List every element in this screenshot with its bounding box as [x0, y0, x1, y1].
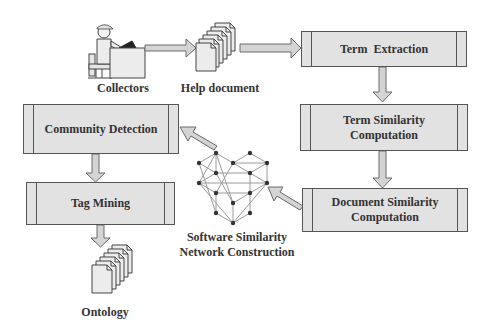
document-similarity-box: Document Similarity Computation: [302, 188, 468, 232]
arrow-document-similarity-to-network: [268, 187, 303, 210]
arrow-tag-mining-to-ontology: [91, 225, 110, 247]
arrow-term-extraction-to-term-similarity: [373, 67, 392, 102]
network-label-line1: Software Similarity: [172, 230, 302, 245]
help-document-icon: [196, 23, 235, 71]
arrow-collectors-to-help: [145, 39, 196, 57]
collectors-person-icon: [88, 25, 145, 78]
arrow-community-to-tag-mining: [86, 154, 105, 182]
arrow-network-to-community-detection: [180, 127, 217, 150]
ontology-label: Ontology: [70, 305, 140, 320]
arrow-help-to-term-extraction: [240, 38, 301, 58]
arrow-term-similarity-to-document-similarity: [373, 151, 392, 188]
community-detection-box: Community Detection: [23, 104, 179, 154]
collectors-label: Collectors: [88, 81, 158, 96]
tag-mining-box: Tag Mining: [26, 182, 175, 225]
help-document-label: Help document: [175, 81, 265, 96]
term-similarity-line1: Term Similarity: [343, 113, 425, 128]
term-extraction-label: Term Extraction: [340, 42, 428, 57]
network-label: Software Similarity Network Construction: [172, 230, 302, 260]
ontology-icon: [92, 245, 132, 293]
community-detection-label: Community Detection: [45, 122, 158, 137]
term-extraction-box: Term Extraction: [301, 31, 467, 67]
term-similarity-line2: Computation: [350, 128, 418, 143]
tag-mining-label: Tag Mining: [71, 196, 130, 211]
document-similarity-line2: Computation: [351, 210, 419, 225]
document-similarity-line1: Document Similarity: [332, 195, 439, 210]
term-similarity-box: Term Similarity Computation: [300, 104, 468, 151]
network-label-line2: Network Construction: [172, 245, 302, 260]
